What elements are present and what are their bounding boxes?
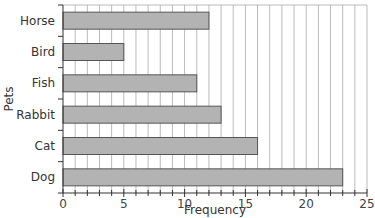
bar-fish (63, 75, 197, 92)
x-axis-title: Frequency (184, 203, 246, 217)
gridlines (63, 5, 367, 193)
y-tick-label: Rabbit (16, 108, 55, 122)
bar-rabbit (63, 106, 221, 123)
bar-bird (63, 44, 124, 61)
y-tick-label: Dog (31, 170, 55, 184)
axes (58, 5, 367, 197)
y-tick-label: Horse (20, 14, 55, 28)
x-tick-label: 0 (59, 197, 67, 211)
bar-horse (63, 12, 209, 29)
bar-cat (63, 138, 258, 155)
x-tick-label: 20 (299, 197, 314, 211)
bars (63, 12, 343, 186)
y-axis-title: Pets (2, 86, 16, 111)
x-tick-label: 25 (359, 197, 374, 211)
x-tick-label: 5 (120, 197, 128, 211)
y-tick-label: Bird (31, 45, 55, 59)
bar-chart: HorseBirdFishRabbitCatDog 0510152025 Fre… (0, 0, 375, 218)
y-tick-label: Fish (32, 76, 55, 90)
bar-dog (63, 169, 343, 186)
y-tick-labels: HorseBirdFishRabbitCatDog (16, 14, 55, 185)
y-tick-label: Cat (35, 139, 56, 153)
